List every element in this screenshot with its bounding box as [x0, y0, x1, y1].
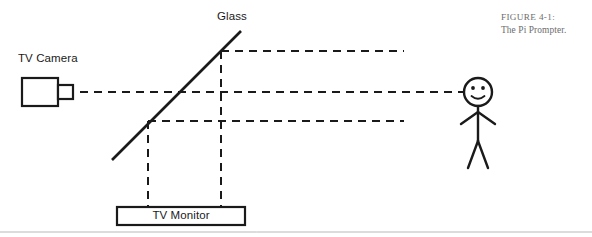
tv-camera-label: TV Camera [18, 52, 78, 64]
stick-figure-leg-left [468, 141, 478, 168]
glass-label: Glass [217, 10, 247, 22]
tv-monitor-label: TV Monitor [117, 209, 245, 221]
stick-figure-leg-right [478, 141, 488, 168]
figure-page: Glass TV Camera TV Monitor FIGURE 4-1: T… [0, 0, 592, 237]
stick-figure-head [464, 78, 492, 106]
stick-figure-eye-left [471, 86, 475, 90]
stick-figure-arm-left [461, 112, 478, 124]
viewer-stick-figure [461, 78, 495, 168]
tv-camera-lens [58, 85, 73, 99]
figure-caption: FIGURE 4-1: The Pi Prompter. [501, 11, 587, 36]
figure-number: FIGURE 4-1: [501, 11, 587, 24]
figure-title: The Pi Prompter. [501, 24, 587, 37]
ray-paths [80, 51, 463, 207]
stick-figure-arm-right [478, 112, 495, 124]
stick-figure-eye-right [481, 86, 485, 90]
tv-camera-icon [22, 78, 73, 106]
tv-camera-body [22, 78, 58, 106]
